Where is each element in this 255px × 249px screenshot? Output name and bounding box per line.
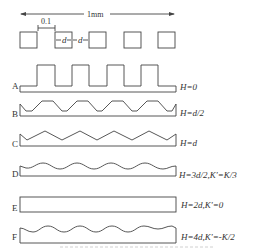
row-equation: H=4d,K'=-K/2 xyxy=(180,232,235,242)
gap-label: 0.1 xyxy=(41,17,51,26)
row-c: C H=d xyxy=(12,131,198,149)
mask-square xyxy=(89,32,106,48)
mask-squares xyxy=(20,32,175,48)
row-e: E H=2d,K'=0 xyxy=(12,197,224,213)
spacing-label: d xyxy=(78,35,83,45)
row-equation: H=3d/2,K'=K/3 xyxy=(178,170,237,180)
row-b: B H=d/2 xyxy=(12,101,205,119)
row-label: B xyxy=(12,109,18,119)
row-label: E xyxy=(12,203,18,213)
row-equation: H=d/2 xyxy=(179,108,205,118)
row-label: F xyxy=(12,232,17,242)
row-label: D xyxy=(12,169,19,179)
gap-dimension: 0.1 xyxy=(38,17,55,31)
row-equation: H=2d,K'=0 xyxy=(180,200,224,210)
row-f: F H=4d,K'=-K/2 xyxy=(12,226,235,243)
row-label: A xyxy=(12,81,19,91)
arrow-right-icon xyxy=(169,12,175,16)
row-label: C xyxy=(12,139,18,149)
diffusion-profile-diagram: 1mm 0.1 d d A H=0 B H=d/2 C H xyxy=(0,0,255,249)
width-label: d xyxy=(62,35,67,45)
arrow-left-icon xyxy=(20,12,26,16)
row-d: D H=3d/2,K'=K/3 xyxy=(12,163,237,180)
mask-square xyxy=(20,32,37,48)
mask-square xyxy=(124,32,141,48)
row-equation: H=0 xyxy=(179,82,198,92)
scale-label: 1mm xyxy=(87,10,104,19)
row-equation: H=d xyxy=(179,138,198,148)
row-a: A H=0 xyxy=(12,65,198,92)
mask-square xyxy=(158,32,175,48)
